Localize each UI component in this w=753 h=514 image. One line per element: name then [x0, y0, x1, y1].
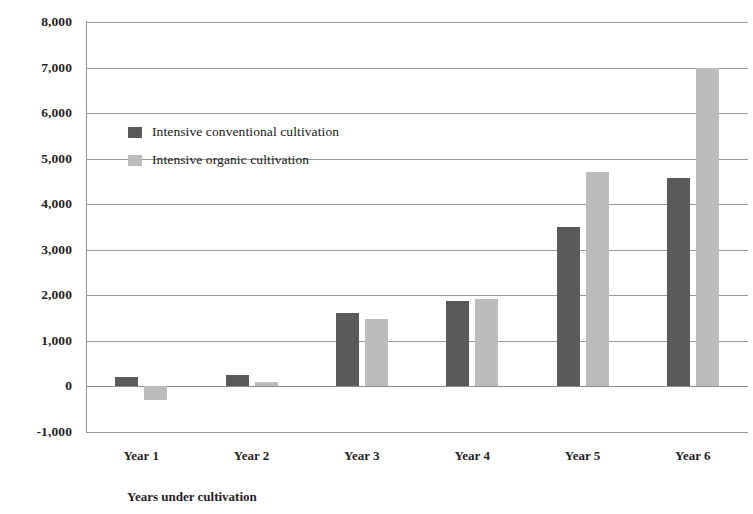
- y-axis-tick-label: 0: [10, 378, 72, 394]
- y-axis-tick-labels: 8,0007,0006,0005,0004,0003,0002,0001,000…: [0, 0, 72, 514]
- gridline: [86, 250, 748, 251]
- bar-year-3-conventional: [336, 313, 359, 387]
- chart-legend: Intensive conventional cultivation Inten…: [128, 118, 339, 174]
- x-axis-tick-label: Year 5: [528, 448, 638, 464]
- x-axis-tick-label: Year 4: [417, 448, 527, 464]
- bar-year-3-organic: [365, 319, 388, 387]
- bar-year-4-conventional: [446, 301, 469, 386]
- y-axis-tick-label: 5,000: [10, 151, 72, 167]
- legend-label-organic: Intensive organic cultivation: [152, 152, 309, 168]
- bar-year-5-organic: [586, 172, 609, 386]
- y-axis-tick-label: 3,000: [10, 242, 72, 258]
- gridline: [86, 22, 748, 23]
- plot-area: [86, 22, 748, 432]
- zero-line: [86, 386, 748, 387]
- bar-year-6-organic: [696, 68, 719, 387]
- gridline: [86, 113, 748, 114]
- y-axis-tick-label: 2,000: [10, 287, 72, 303]
- y-axis-tick-label: 4,000: [10, 196, 72, 212]
- y-axis-tick-label: 7,000: [10, 60, 72, 76]
- gridline: [86, 68, 748, 69]
- bar-year-2-conventional: [226, 375, 249, 386]
- legend-label-conventional: Intensive conventional cultivation: [152, 124, 339, 140]
- bar-year-6-conventional: [667, 178, 690, 386]
- legend-item-organic: Intensive organic cultivation: [128, 146, 339, 174]
- x-axis-tick-label: Year 2: [197, 448, 307, 464]
- y-axis-tick-label: -1,000: [10, 424, 72, 440]
- legend-item-conventional: Intensive conventional cultivation: [128, 118, 339, 146]
- legend-swatch-conventional-icon: [128, 127, 142, 138]
- gridline: [86, 341, 748, 342]
- x-axis-title: Years under cultivation: [127, 489, 257, 505]
- x-axis-tick-label: Year 3: [307, 448, 417, 464]
- bar-year-5-conventional: [557, 227, 580, 386]
- y-axis-tick-label: 1,000: [10, 333, 72, 349]
- gridline: [86, 204, 748, 205]
- bar-year-1-conventional: [115, 377, 138, 386]
- x-axis-tick-label: Year 1: [86, 448, 196, 464]
- bar-year-2-organic: [255, 382, 278, 387]
- bar-year-4-organic: [475, 299, 498, 387]
- bar-year-1-organic: [144, 386, 167, 400]
- y-axis-tick-label: 6,000: [10, 105, 72, 121]
- legend-swatch-organic-icon: [128, 155, 142, 166]
- x-axis-tick-label: Year 6: [638, 448, 748, 464]
- gridline: [86, 295, 748, 296]
- bar-chart: 8,0007,0006,0005,0004,0003,0002,0001,000…: [0, 0, 753, 514]
- gridline: [86, 432, 748, 433]
- y-axis-tick-label: 8,000: [10, 14, 72, 30]
